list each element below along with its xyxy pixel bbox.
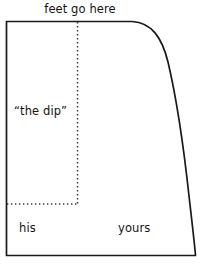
diagram-figure: feet go here “the dip” his yours xyxy=(0,0,203,272)
label-yours: yours xyxy=(118,221,150,235)
label-feet-go-here: feet go here xyxy=(0,2,160,16)
label-his: his xyxy=(19,221,36,235)
label-the-dip: “the dip” xyxy=(14,104,67,118)
